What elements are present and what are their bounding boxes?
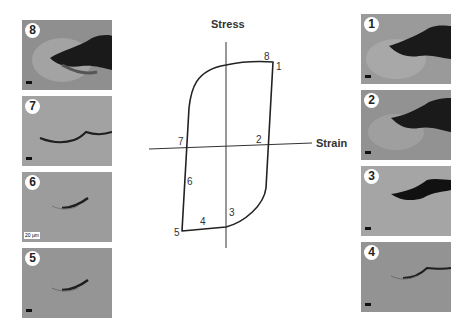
panel-number-badge: 4 [364, 245, 379, 260]
point-label-3: 3 [229, 207, 235, 218]
point-label-1: 1 [276, 61, 282, 72]
micrograph-4: 4 [361, 242, 451, 312]
micrograph-3: 3 [361, 166, 451, 236]
scale-bar [365, 151, 371, 154]
point-label-6: 6 [187, 176, 193, 187]
micrograph-2: 2 [361, 90, 451, 160]
micrograph-6: 6 20 µm [22, 172, 112, 242]
strain-axis-label: Strain [316, 137, 347, 149]
scale-bar [365, 227, 371, 230]
scale-bar-label: 20 µm [24, 232, 40, 239]
panel-number-badge: 5 [25, 251, 40, 266]
panel-number-badge: 7 [25, 99, 40, 114]
micrograph-1: 1 [361, 14, 451, 84]
panel-number-badge: 8 [25, 23, 40, 38]
strain-axis [149, 143, 312, 149]
panel-number-badge: 6 [25, 175, 40, 190]
point-label-8: 8 [264, 51, 270, 62]
point-label-4: 4 [200, 216, 206, 227]
scale-bar [26, 81, 32, 84]
stress-axis-label: Stress [211, 18, 245, 30]
point-label-2: 2 [256, 134, 262, 145]
micrograph-5: 5 [22, 248, 112, 318]
micrograph-8: 8 [22, 20, 112, 90]
micrograph-7: 7 [22, 96, 112, 166]
panel-number-badge: 2 [364, 93, 379, 108]
scale-bar [26, 157, 32, 160]
panel-number-badge: 1 [364, 17, 379, 32]
scale-bar [26, 309, 32, 312]
point-label-7: 7 [178, 136, 184, 147]
scale-bar [365, 303, 371, 306]
scale-bar [365, 75, 371, 78]
point-label-5: 5 [174, 227, 180, 238]
panel-number-badge: 3 [364, 169, 379, 184]
